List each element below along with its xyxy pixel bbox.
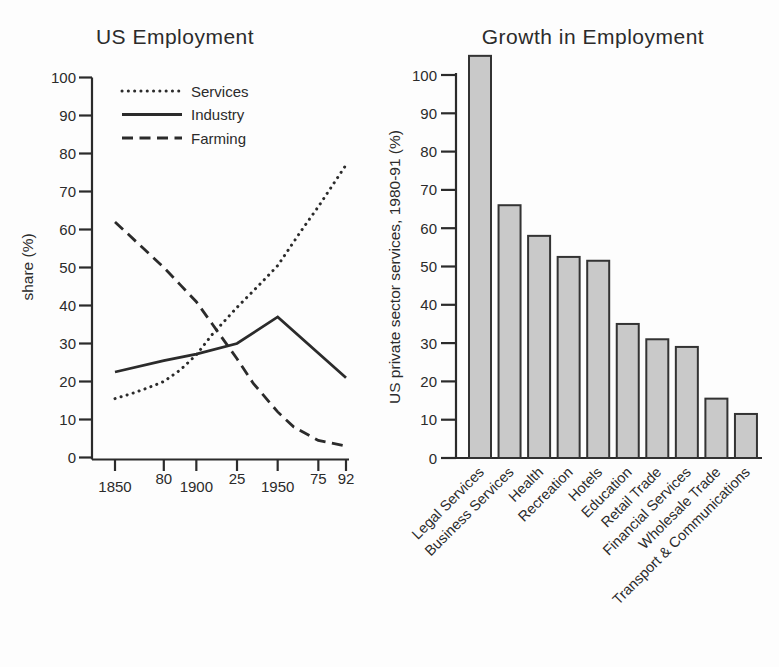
- bar-hotels: [587, 261, 609, 458]
- legend-label-services: Services: [191, 83, 249, 100]
- y-tick-label-40: 40: [420, 296, 437, 313]
- line-chart-title: US Employment: [96, 25, 254, 48]
- y-tick-label-30: 30: [59, 335, 76, 352]
- y-tick-label-30: 30: [420, 335, 437, 352]
- bar-chart-plot-area: 0102030405060708090100Legal ServicesBusi…: [409, 56, 762, 608]
- legend-label-farming: Farming: [191, 130, 246, 147]
- y-tick-label-60: 60: [420, 220, 437, 237]
- x-tick-label-75: 75: [310, 470, 327, 487]
- y-tick-label-80: 80: [59, 145, 76, 162]
- bar-retail-trade: [646, 339, 668, 458]
- x-tick-label-1850: 1850: [98, 478, 131, 495]
- x-tick-label-92: 92: [338, 470, 355, 487]
- y-tick-label-90: 90: [420, 105, 437, 122]
- bar-chart-growth-in-employment: Growth in Employment US private sector s…: [386, 25, 762, 608]
- y-tick-label-90: 90: [59, 107, 76, 124]
- bar-legal-services: [469, 56, 491, 458]
- bar-health: [528, 236, 550, 458]
- x-tick-label-80: 80: [155, 470, 172, 487]
- bar-financial-services: [676, 347, 698, 458]
- y-tick-label-0: 0: [68, 449, 76, 466]
- series-line-farming: [115, 222, 346, 446]
- y-tick-label-10: 10: [420, 411, 437, 428]
- y-tick-label-80: 80: [420, 143, 437, 160]
- line-chart-y-axis-label: share (%): [19, 233, 36, 300]
- bar-business-services: [499, 205, 521, 458]
- bar-recreation: [558, 257, 580, 458]
- figure-canvas: US Employment share (%) 0102030405060708…: [0, 0, 779, 667]
- bar-wholesale-trade: [705, 399, 727, 458]
- y-tick-label-100: 100: [412, 67, 437, 84]
- line-chart-legend: ServicesIndustryFarming: [122, 83, 249, 147]
- y-tick-label-0: 0: [429, 450, 437, 467]
- y-tick-label-20: 20: [420, 373, 437, 390]
- y-tick-label-70: 70: [420, 181, 437, 198]
- y-tick-label-50: 50: [420, 258, 437, 275]
- x-tick-label-1950: 1950: [261, 478, 294, 495]
- y-tick-label-70: 70: [59, 183, 76, 200]
- y-tick-label-10: 10: [59, 411, 76, 428]
- series-line-industry: [115, 317, 346, 378]
- bar-chart-y-axis-label: US private sector services, 1980-91 (%): [386, 130, 403, 404]
- bar-education: [617, 324, 639, 458]
- y-tick-label-20: 20: [59, 373, 76, 390]
- dual-chart-figure: US Employment share (%) 0102030405060708…: [0, 0, 779, 667]
- y-tick-label-100: 100: [51, 69, 76, 86]
- x-tick-label-25: 25: [229, 470, 246, 487]
- y-tick-label-40: 40: [59, 297, 76, 314]
- bar-chart-title: Growth in Employment: [482, 25, 704, 48]
- y-tick-label-50: 50: [59, 259, 76, 276]
- legend-label-industry: Industry: [191, 106, 245, 123]
- line-chart-us-employment: US Employment share (%) 0102030405060708…: [19, 25, 354, 495]
- bar-transport-communications: [735, 414, 757, 458]
- x-tick-label-1900: 1900: [180, 478, 213, 495]
- y-tick-label-60: 60: [59, 221, 76, 238]
